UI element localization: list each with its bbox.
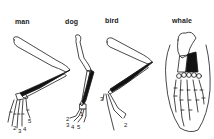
- bird-limb: [103, 38, 153, 130]
- man-limb: [8, 37, 70, 128]
- bird-digit-2: 2: [124, 122, 127, 128]
- bird-digit-3: 3: [100, 96, 103, 102]
- dog-digit-1: 1: [80, 111, 83, 117]
- man-digit-2: 2: [13, 125, 16, 131]
- man-digit-3: 3: [18, 128, 21, 134]
- man-digit-4: 4: [23, 126, 26, 132]
- limb-drawings: [0, 0, 214, 139]
- dog-digit-4: 4: [71, 124, 74, 130]
- whale-limb: [166, 32, 211, 131]
- dog-digit-5: 5: [77, 124, 80, 130]
- dog-limb: [70, 35, 94, 122]
- dog-digit-3: 3: [66, 122, 69, 128]
- man-digit-5: 5: [28, 118, 31, 124]
